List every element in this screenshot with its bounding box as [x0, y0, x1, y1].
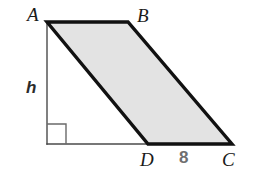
figure-canvas — [0, 0, 256, 176]
parallelogram-shape — [47, 22, 232, 144]
vertex-label-c: C — [222, 150, 235, 169]
vertex-label-d: D — [140, 150, 154, 169]
geometry-figure: A B D C h 8 — [0, 0, 256, 176]
right-angle-icon — [47, 124, 66, 144]
height-label: h — [26, 79, 36, 96]
vertex-label-b: B — [137, 6, 149, 25]
vertex-label-a: A — [27, 5, 39, 24]
base-measure-label: 8 — [179, 149, 188, 166]
